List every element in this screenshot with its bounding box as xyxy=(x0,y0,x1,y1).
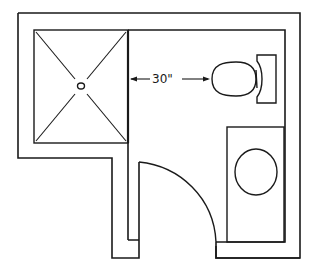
arrow-left-icon xyxy=(130,77,137,82)
vanity xyxy=(227,127,284,242)
outer-wall-right xyxy=(216,242,300,258)
shower-diagonal xyxy=(87,32,126,79)
shower-diagonal xyxy=(36,94,75,141)
toilet-connector xyxy=(256,70,257,88)
shower xyxy=(34,30,128,143)
toilet-bowl xyxy=(212,62,256,96)
outer-wall xyxy=(18,13,300,258)
dimension-label: 30" xyxy=(150,73,175,85)
door xyxy=(139,162,216,242)
shower-diagonal xyxy=(36,32,75,79)
vanity-counter xyxy=(227,127,284,242)
inner-wall xyxy=(128,30,285,242)
floor-plan xyxy=(0,0,316,270)
drain-icon xyxy=(78,83,85,89)
toilet xyxy=(212,55,276,103)
sink-basin xyxy=(235,149,277,195)
door-swing-arc xyxy=(139,162,216,242)
shower-diagonal xyxy=(87,94,126,141)
arrow-right-icon xyxy=(203,77,210,82)
inner-wall-stub xyxy=(128,162,139,240)
toilet-tank xyxy=(257,55,276,103)
